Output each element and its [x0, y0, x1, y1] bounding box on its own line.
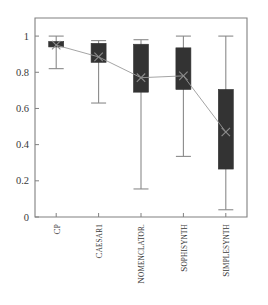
- x-tick-label-3: NOMENCLATOR.: [136, 224, 146, 284]
- y-tick-label: 0.8: [16, 67, 29, 78]
- y-tick-label: 0: [24, 212, 29, 223]
- y-tick-label: 0.2: [16, 175, 29, 186]
- x-tick-label-4: SOPHISYNTH: [179, 224, 189, 272]
- box-plot-figure: 00.20.40.60.81 CPCAESAR1NOMENCLATOR.SOPH…: [0, 0, 268, 305]
- box-iqr-rect: [134, 44, 149, 92]
- x-tick-label-1: CP: [52, 224, 62, 234]
- y-tick-label: 0.4: [16, 139, 30, 150]
- x-tick-label-2: CAESAR1: [94, 224, 104, 259]
- y-tick-label: 1: [24, 31, 29, 42]
- box-iqr-rect: [218, 89, 233, 169]
- y-tick-label: 0.6: [16, 103, 29, 114]
- x-tick-label-5: SIMPLESYNTH: [221, 224, 231, 277]
